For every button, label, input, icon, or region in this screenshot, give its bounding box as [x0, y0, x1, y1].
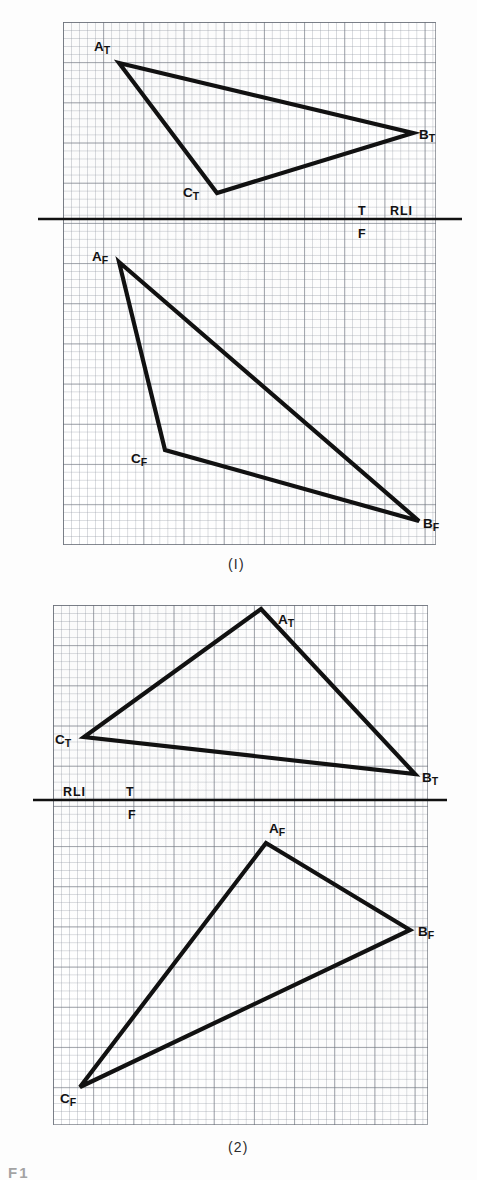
vertex-label-af: AF — [269, 822, 285, 836]
vertex-label-bf: BF — [418, 925, 434, 939]
vertex-label-ct: CT — [55, 733, 71, 747]
triangle-front-view — [80, 843, 410, 1087]
vertex-label-at: AT — [278, 613, 294, 627]
figure-2-reference-line-label: RLI — [63, 786, 86, 799]
figure-2-linework — [0, 0, 477, 1180]
figure-2-caption: (2) — [228, 1139, 249, 1155]
vertex-label-subscript: F — [279, 826, 285, 838]
vertex-label-cf: CF — [60, 1092, 76, 1106]
vertex-label-bt: BT — [422, 771, 438, 785]
figure-2-front-view-tag: F — [128, 809, 137, 822]
drawing-sheet: RLI T F AT BT CT AF BF CF (I) RLI T F AT… — [0, 0, 477, 1180]
triangle-top-view — [84, 609, 415, 774]
vertex-label-subscript: T — [288, 617, 294, 629]
vertex-label-subscript: F — [428, 929, 434, 941]
vertex-label-subscript: T — [432, 775, 438, 787]
vertex-label-subscript: F — [70, 1096, 76, 1108]
figure-2-top-view-tag: T — [126, 786, 135, 799]
vertex-label-subscript: T — [65, 737, 71, 749]
